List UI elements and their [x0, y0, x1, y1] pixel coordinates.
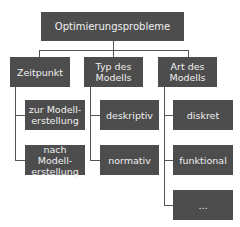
spine-art — [164, 87, 165, 205]
root-label: Optimierungsprobleme — [55, 21, 170, 32]
category-art-des-modells: Art des Modells — [158, 57, 217, 87]
category-label: Zeitpunkt — [17, 67, 63, 78]
leaf-funktional: funktional — [173, 145, 233, 175]
leaf-label: nach Modell- erstellung — [27, 144, 83, 177]
branch-art-3 — [164, 205, 173, 206]
leaf-deskriptiv: deskriptiv — [100, 100, 159, 130]
branch-typ-1 — [90, 115, 100, 116]
leaf-normativ: normativ — [100, 145, 159, 175]
category-typ-des-modells: Typ des Modells — [84, 57, 143, 87]
category-label: Typ des Modells — [95, 61, 131, 83]
leaf-ellipsis: ... — [173, 190, 233, 220]
root-node: Optimierungsprobleme — [41, 12, 184, 41]
leaf-label: ... — [198, 200, 207, 211]
leaf-label: deskriptiv — [106, 110, 153, 121]
stem-typ — [113, 50, 114, 57]
stem-zeitpunkt — [39, 50, 40, 57]
spine-typ — [90, 87, 91, 160]
branch-zeitpunkt-1 — [15, 115, 25, 116]
spine-zeitpunkt — [15, 87, 16, 160]
leaf-label: normativ — [108, 155, 151, 166]
category-label: Art des Modells — [169, 61, 205, 83]
branch-typ-2 — [90, 160, 100, 161]
root-stem — [113, 41, 114, 50]
leaf-label: funktional — [179, 155, 227, 166]
branch-art-1 — [164, 115, 173, 116]
leaf-label: diskret — [187, 110, 219, 121]
branch-zeitpunkt-2 — [15, 160, 25, 161]
leaf-nach-modellerstellung: nach Modell- erstellung — [25, 145, 85, 175]
category-zeitpunkt: Zeitpunkt — [10, 57, 70, 87]
leaf-zur-modellerstellung: zur Modell- erstellung — [25, 100, 85, 130]
branch-art-2 — [164, 160, 173, 161]
stem-art — [188, 50, 189, 57]
level1-bus — [39, 50, 189, 51]
leaf-diskret: diskret — [173, 100, 233, 130]
leaf-label: zur Modell- erstellung — [29, 104, 82, 126]
